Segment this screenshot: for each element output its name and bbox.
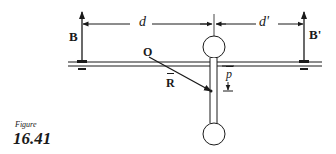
p-overbar (226, 66, 233, 67)
label-r-text: R (166, 76, 175, 90)
label-p: p (226, 68, 232, 80)
top-sphere (203, 36, 225, 58)
r-vector-tip (210, 90, 213, 93)
label-b-prime: B' (309, 28, 321, 41)
b-field-arrow (77, 12, 87, 70)
label-o: O (143, 46, 152, 58)
rails (68, 62, 322, 66)
label-d: d (139, 15, 146, 29)
label-d-prime: d' (259, 15, 269, 29)
figure-caption-number: 16.41 (13, 130, 51, 147)
label-b: B (69, 30, 78, 43)
r-overbar (167, 73, 174, 74)
label-p-text: p (226, 67, 232, 81)
figure-caption-word: Figure (15, 121, 36, 129)
bottom-sphere (203, 123, 225, 145)
label-r: R (166, 77, 175, 89)
b-prime-field-arrow (299, 12, 309, 70)
